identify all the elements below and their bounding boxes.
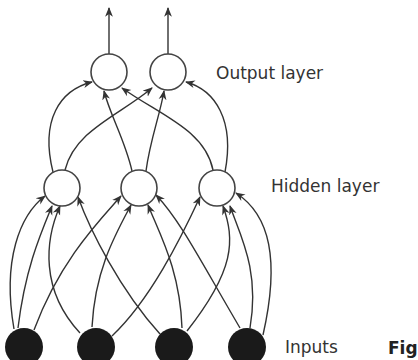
hidden-layer-label: Hidden layer: [271, 176, 379, 196]
inputs-label: Inputs: [285, 337, 338, 357]
input-node: [228, 328, 266, 360]
hidden-node: [199, 170, 235, 206]
output-node: [91, 54, 127, 90]
hidden-node: [44, 170, 80, 206]
hidden-node: [121, 170, 157, 206]
output-layer-label: Output layer: [216, 63, 323, 83]
input-node: [5, 328, 43, 360]
output-node: [150, 54, 186, 90]
input-node: [155, 328, 193, 360]
input-node: [77, 328, 115, 360]
figure-caption: Fig: [388, 338, 418, 358]
